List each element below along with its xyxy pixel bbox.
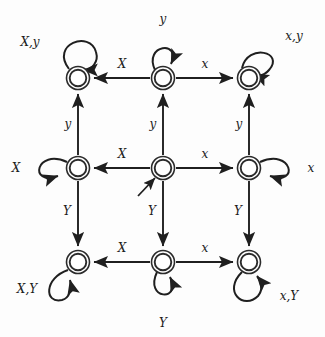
- transition-middle-right-to-bottom-right: Y: [234, 181, 249, 246]
- transition-top-center-to-top-left: X: [94, 57, 150, 78]
- self-loop-label-bottom-center: Y: [159, 316, 168, 330]
- transition-center-to-top-center: y: [149, 94, 163, 155]
- edge-label-top-right: x: [202, 57, 209, 71]
- start-arrow-center: [138, 178, 155, 196]
- edge-label-col-center-down: Y: [148, 204, 157, 218]
- transition-center-to-middle-left: X: [94, 147, 150, 168]
- state-bottom-center[interactable]: [152, 251, 175, 274]
- automaton-canvas: X x X x X x y: [0, 0, 325, 337]
- self-loop-label-top-right: x,y: [285, 29, 303, 43]
- edge-label-bot-left: X: [117, 241, 127, 255]
- transition-middle-left-to-top-left: y: [64, 94, 78, 155]
- self-loop-label-bottom-left: X,Y: [16, 282, 38, 296]
- self-loop-label-top-left: X,y: [19, 35, 39, 49]
- transition-middle-left-to-bottom-left: Y: [63, 181, 78, 246]
- edge-label-col-right-down: Y: [234, 204, 243, 218]
- transition-center-to-bottom-center: Y: [148, 181, 163, 246]
- state-top-left[interactable]: [67, 67, 90, 90]
- edge-label-col-right-up: y: [235, 117, 243, 131]
- state-bottom-right[interactable]: [238, 251, 261, 274]
- edge-label-col-left-up: y: [64, 117, 72, 131]
- self-loop-label-top-center: y: [159, 12, 167, 26]
- self-loop-middle-left: X: [11, 159, 67, 178]
- transition-top-center-to-top-right: x: [176, 57, 233, 78]
- self-loop-label-bottom-right: x,Y: [280, 289, 300, 303]
- state-middle-left[interactable]: [67, 157, 90, 180]
- self-loop-bottom-left: X,Y: [16, 270, 71, 300]
- transition-middle-right-to-top-right: y: [235, 94, 249, 155]
- edge-label-mid-left: X: [117, 147, 127, 161]
- edge-label-bot-right: x: [202, 241, 209, 255]
- self-loop-middle-right: x: [260, 159, 315, 178]
- state-middle-right[interactable]: [238, 157, 261, 180]
- self-loop-top-left: X,y: [19, 35, 96, 70]
- edge-label-mid-right: x: [202, 147, 209, 161]
- self-loop-top-center: y: [153, 12, 173, 70]
- transition-bottom-center-to-bottom-left: X: [94, 241, 150, 262]
- state-top-center[interactable]: [152, 67, 175, 90]
- state-center-start[interactable]: [152, 157, 175, 180]
- automaton-diagram: X x X x X x y: [0, 0, 325, 337]
- transition-bottom-center-to-bottom-right: x: [176, 241, 233, 262]
- edge-label-top-left: X: [117, 57, 127, 71]
- state-bottom-left[interactable]: [67, 251, 90, 274]
- state-top-right[interactable]: [238, 67, 261, 90]
- self-loop-label-middle-right: x: [308, 161, 315, 175]
- edge-label-col-center-up: y: [149, 117, 157, 131]
- edge-label-col-left-down: Y: [63, 204, 72, 218]
- self-loop-bottom-right: x,Y: [234, 272, 299, 303]
- self-loop-label-middle-left: X: [11, 161, 21, 175]
- transition-center-to-middle-right: x: [176, 147, 233, 168]
- self-loop-bottom-center: Y: [154, 272, 172, 330]
